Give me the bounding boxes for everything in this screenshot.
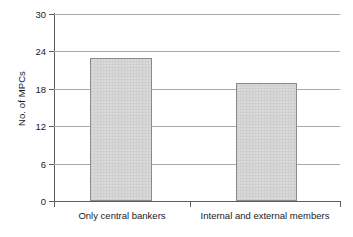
- y-tick-label-12: 12: [35, 121, 46, 132]
- bar-only-central-bankers[interactable]: [90, 58, 152, 201]
- y-tick-mark-18: [49, 89, 54, 90]
- x-tick-label-internal-and-external-members: Internal and external members: [201, 210, 330, 221]
- x-tick-mark-left: [54, 201, 55, 207]
- x-tick-label-only-central-bankers: Only central bankers: [78, 210, 165, 221]
- y-tick-label-18: 18: [35, 83, 46, 94]
- gridline-0: [54, 201, 340, 202]
- y-tick-mark-24: [49, 51, 54, 52]
- plot-area: 30 24 18 12 6 0: [54, 14, 340, 201]
- y-tick-label-24: 24: [35, 46, 46, 57]
- x-tick-mark-middle: [190, 201, 191, 207]
- y-tick-label-30: 30: [35, 9, 46, 20]
- y-tick-mark-6: [49, 164, 54, 165]
- y-axis-title: No. of MPCs: [16, 39, 27, 159]
- y-tick-mark-30: [49, 14, 54, 15]
- gridline-24: [54, 51, 340, 52]
- y-tick-label-0: 0: [41, 196, 46, 207]
- y-tick-label-6: 6: [41, 158, 46, 169]
- y-tick-mark-12: [49, 126, 54, 127]
- gridline-30: [54, 14, 340, 15]
- bar-chart: No. of MPCs 30 24 18 12 6: [0, 0, 353, 237]
- x-tick-mark-right: [340, 201, 341, 207]
- bar-internal-and-external-members[interactable]: [236, 83, 297, 201]
